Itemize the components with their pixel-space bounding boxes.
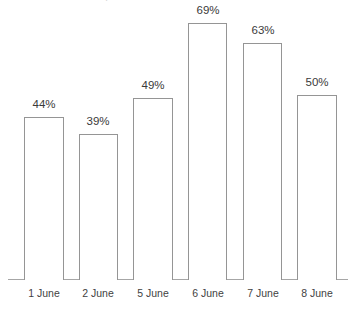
bar-value-label: 44%: [9, 98, 79, 111]
bar-5-june[interactable]: [133, 98, 173, 280]
bar-value-label: 63%: [228, 24, 298, 37]
bar-1-june[interactable]: [24, 117, 64, 280]
bar-value-label: 50%: [282, 76, 352, 89]
bar-value-label: 69%: [173, 4, 243, 17]
bar-6-june[interactable]: [188, 23, 227, 280]
category-labels-layer: 1 June2 June5 June6 June7 June8 June: [0, 286, 352, 316]
bar-value-label: 39%: [63, 115, 133, 128]
bar-7-june[interactable]: [243, 43, 282, 280]
bar-value-label: 49%: [118, 79, 188, 92]
plot-area: 44%39%49%69%63%50%: [0, 0, 352, 281]
bar-8-june[interactable]: [297, 95, 337, 280]
bar-2-june[interactable]: [79, 134, 118, 280]
category-label-8-june: 8 June: [282, 286, 352, 300]
bar-chart: . 44%39%49%69%63%50% 1 June2 June5 June6…: [0, 0, 352, 316]
